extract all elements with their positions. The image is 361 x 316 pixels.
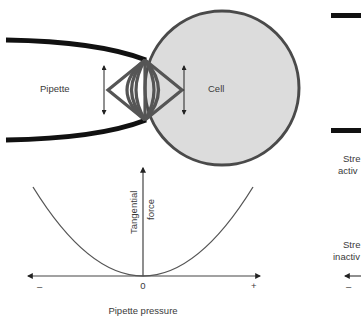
- pipette-label: Pipette: [40, 84, 70, 94]
- x-tick-minus: –: [37, 282, 42, 292]
- x-axis-label: Pipette pressure: [108, 306, 177, 316]
- x-tick-plus: +: [251, 281, 257, 291]
- cell-label: Cell: [208, 84, 224, 94]
- tangential-force-plot: [28, 168, 260, 276]
- x-tick-zero: 0: [140, 281, 145, 291]
- membrane-patch-diagram: [0, 0, 361, 316]
- stretch-activated-label-line2: activ: [338, 166, 358, 176]
- partial-x-tick-minus: –: [346, 282, 351, 292]
- stretch-inactivated-label-line2: inactiv: [333, 252, 360, 262]
- y-axis-label-line2: force: [146, 199, 156, 220]
- partial-next-panel: [331, 13, 361, 276]
- stretch-activated-label-line1: Stre: [343, 154, 360, 164]
- stretch-inactivated-label-line1: Stre: [343, 240, 360, 250]
- pipette-walls: [6, 40, 146, 140]
- y-axis-label-line1: Tangential: [129, 191, 139, 234]
